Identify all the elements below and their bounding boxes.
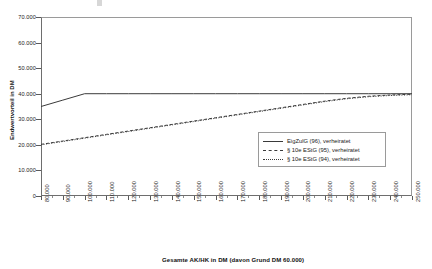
x-tick-minor <box>292 196 293 198</box>
y-tick-label: 60.000 <box>18 40 36 46</box>
x-tick-label: 160.000 <box>218 181 224 202</box>
x-tick <box>368 196 369 200</box>
x-tick-minor <box>205 196 206 198</box>
x-tick-minor <box>52 196 53 198</box>
y-axis-title: Endwertvorteil in DM <box>9 80 15 140</box>
x-tick-label: 110.000 <box>109 181 115 202</box>
x-tick-label: 240.000 <box>393 181 399 202</box>
x-tick <box>237 196 238 200</box>
y-tick <box>36 17 41 18</box>
x-axis-title: Gesamte AK/HK in DM (davon Grund DM 60.0… <box>162 257 304 263</box>
x-tick-minor <box>227 196 228 198</box>
x-tick-label: 140.000 <box>175 181 181 202</box>
legend-item-label: § 10e EStG (95), verheiratet <box>287 147 360 153</box>
y-tick <box>36 145 41 146</box>
legend-item: EigZulG (96), verheiratet <box>263 136 380 145</box>
x-tick-minor <box>248 196 249 198</box>
x-tick-minor <box>270 196 271 198</box>
x-tick <box>259 196 260 200</box>
x-tick <box>63 196 64 200</box>
x-tick-minor <box>379 196 380 198</box>
x-tick-label: 200.000 <box>305 181 311 202</box>
x-tick <box>412 196 413 200</box>
x-tick-minor <box>117 196 118 198</box>
y-tick-label: 50.000 <box>18 65 36 71</box>
x-tick <box>128 196 129 200</box>
y-tick-label: 40.000 <box>18 91 36 97</box>
x-tick-minor <box>314 196 315 198</box>
x-tick-label: 230.000 <box>371 181 377 202</box>
chart-container: 010.00020.00030.00040.00050.00060.00070.… <box>0 0 432 269</box>
y-tick-label: 30.000 <box>18 116 36 122</box>
y-axis-tick-labels: 010.00020.00030.00040.00050.00060.00070.… <box>0 0 41 269</box>
x-tick-label: 100.000 <box>87 181 93 202</box>
x-tick <box>390 196 391 200</box>
legend-item: § 10e EStG (94), verheiratet <box>263 154 380 163</box>
x-tick <box>281 196 282 200</box>
plot-area <box>41 17 412 196</box>
x-tick-label: 130.000 <box>153 181 159 202</box>
y-tick <box>36 170 41 171</box>
legend-item-label: § 10e EStG (94), verheiratet <box>287 156 360 162</box>
x-tick-label: 80.000 <box>44 184 50 202</box>
x-tick-minor <box>139 196 140 198</box>
y-tick-label: 70.000 <box>18 14 36 20</box>
y-tick <box>36 68 41 69</box>
x-tick-minor <box>401 196 402 198</box>
x-tick <box>41 196 42 200</box>
x-tick-label: 190.000 <box>284 181 290 202</box>
legend-item-label: EigZulG (96), verheiratet <box>287 138 350 144</box>
x-tick-label: 150.000 <box>196 181 202 202</box>
legend-item: § 10e EStG (95), verheiratet <box>263 145 380 154</box>
x-tick-label: 210.000 <box>327 181 333 202</box>
x-tick-minor <box>183 196 184 198</box>
y-tick <box>36 43 41 44</box>
x-tick-label: 180.000 <box>262 181 268 202</box>
x-tick <box>150 196 151 200</box>
x-tick-label: 90.000 <box>65 184 71 202</box>
x-tick-label: 220.000 <box>349 181 355 202</box>
y-tick <box>36 94 41 95</box>
x-tick-label: 120.000 <box>131 181 137 202</box>
x-tick <box>194 196 195 200</box>
x-tick-label: 170.000 <box>240 181 246 202</box>
y-tick-label: 10.000 <box>18 167 36 173</box>
x-tick-minor <box>336 196 337 198</box>
scan-artifact <box>97 0 102 6</box>
x-tick-minor <box>96 196 97 198</box>
x-tick <box>347 196 348 200</box>
chart-legend: EigZulG (96), verheiratet§ 10e EStG (95)… <box>258 132 386 167</box>
y-tick-label: 20.000 <box>18 142 36 148</box>
x-tick <box>325 196 326 200</box>
x-tick <box>85 196 86 200</box>
x-tick <box>172 196 173 200</box>
x-tick <box>106 196 107 200</box>
x-tick-minor <box>74 196 75 198</box>
x-tick-minor <box>357 196 358 198</box>
x-tick <box>216 196 217 200</box>
x-tick-minor <box>161 196 162 198</box>
x-tick-label: 250.000 <box>415 181 421 202</box>
x-tick <box>303 196 304 200</box>
y-tick <box>36 119 41 120</box>
